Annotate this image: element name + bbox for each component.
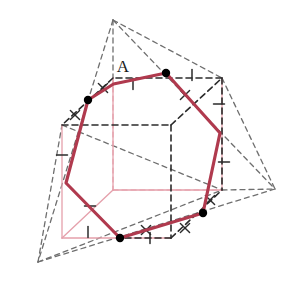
tetrahedron-edge-5: [38, 125, 62, 262]
cube-light-hidden-group: [113, 78, 222, 190]
tetrahedron-edge-4: [38, 190, 222, 262]
tetrahedron-edge-6: [62, 125, 222, 190]
vertex-dot-2: [116, 234, 124, 242]
vertex-dot-0: [162, 69, 170, 77]
geometry-figure: A: [0, 0, 290, 287]
vertex-dot-3: [199, 209, 207, 217]
tetrahedron-edge-9: [222, 78, 275, 189]
figure-canvas: A: [0, 0, 290, 287]
tetrahedron-edge-7: [222, 189, 275, 190]
label-A: A: [117, 57, 130, 76]
vertex-dot-1: [84, 96, 92, 104]
